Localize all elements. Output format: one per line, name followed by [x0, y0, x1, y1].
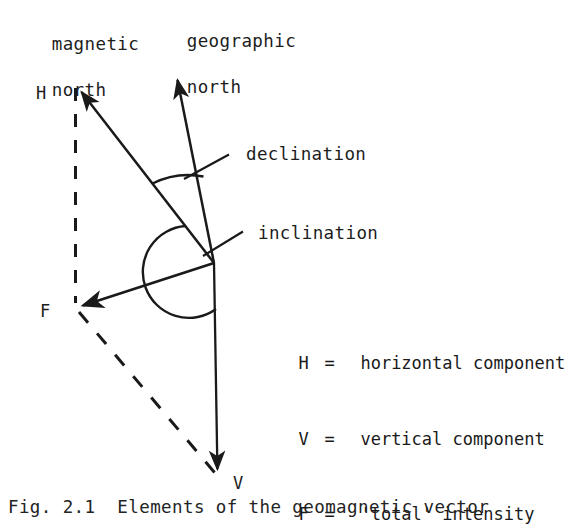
inclination-label: inclination	[258, 222, 378, 245]
geographic-north-caption-line2: north	[187, 77, 242, 97]
legend-definition: horizontal component	[360, 351, 565, 376]
f-vector-label: F	[40, 300, 51, 322]
magnetic-north-caption-line1: magnetic	[52, 34, 140, 54]
h-vector-label: H	[36, 82, 47, 104]
v-vector-arrow	[214, 263, 217, 469]
inclination-arc	[143, 226, 216, 318]
legend-symbol: V	[298, 427, 324, 452]
legend-equals: =	[324, 427, 360, 452]
legend-definition: vertical component	[360, 427, 544, 452]
declination-arc	[153, 175, 204, 183]
legend-row: V=vertical component	[237, 401, 565, 476]
magnetic-north-caption: magnetic north	[8, 10, 139, 125]
magnetic-north-caption-line2: north	[52, 80, 107, 100]
geographic-north-caption-line1: geographic	[187, 31, 296, 51]
dashed-diagonal-construction-line	[79, 312, 215, 473]
legend-equals: =	[324, 351, 360, 376]
geographic-north-caption: geographic north	[143, 7, 296, 122]
legend-symbol: H	[298, 351, 324, 376]
declination-leader-line	[184, 155, 229, 180]
figure-caption: Fig. 2.1 Elements of the geomagnetic vec…	[8, 497, 489, 517]
f-vector-arrow	[83, 263, 214, 306]
declination-label: declination	[246, 143, 366, 166]
legend-row: H=horizontal component	[237, 326, 565, 401]
